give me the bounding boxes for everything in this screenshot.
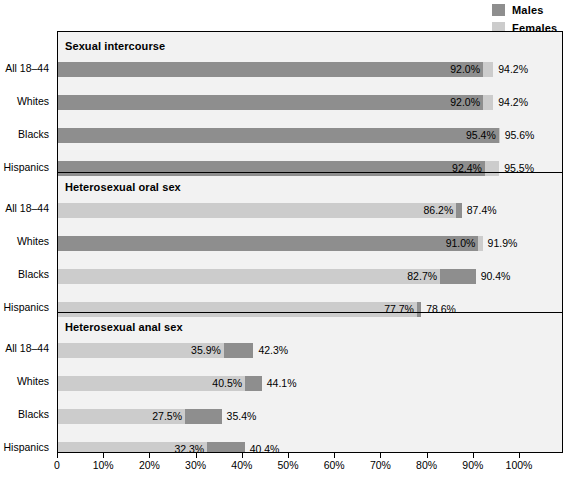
axis-tick — [288, 453, 289, 458]
axis-tick — [196, 453, 197, 458]
category-label: All 18–44 — [5, 201, 49, 216]
panel-title: Sexual intercourse — [65, 40, 165, 52]
axis-tick-label: 70% — [370, 459, 391, 471]
bar-value-females: 82.7% — [407, 269, 440, 284]
bar-value-females: 27.5% — [152, 409, 185, 424]
bar-value-males: 42.3% — [253, 343, 288, 358]
legend-swatch-males — [492, 4, 505, 16]
bar-value-males: 87.4% — [462, 203, 497, 218]
axis-tick-label: 80% — [416, 459, 437, 471]
chart-panel-1: Heterosexual oral sex86.2%87.4%91.0%91.9… — [58, 172, 562, 312]
chart-panel-2: Heterosexual anal sex35.9%42.3%40.5%44.1… — [58, 312, 562, 452]
chart-panel-0: Sexual intercourse92.0%94.2%92.0%94.2%95… — [58, 32, 562, 172]
category-label: Hispanics — [3, 300, 49, 315]
bar-value-males: 91.0% — [446, 236, 479, 251]
axis-tick — [427, 453, 428, 458]
bar-value-females: 40.5% — [212, 376, 245, 391]
category-axis-labels: All 18–44WhitesBlacksHispanicsAll 18–44W… — [0, 31, 53, 453]
bar-value-females: 86.2% — [423, 203, 456, 218]
bar-segment-females — [58, 203, 456, 218]
bar-value-females: 94.2% — [493, 62, 528, 77]
bar-value-males: 90.4% — [476, 269, 511, 284]
category-label: All 18–44 — [5, 341, 49, 356]
axis-tick-label: 60% — [324, 459, 345, 471]
bar-row: 27.5%35.4% — [58, 409, 562, 424]
axis-tick-label: 20% — [139, 459, 160, 471]
bar-value-females: 35.9% — [191, 343, 224, 358]
x-axis: 010%20%30%40%50%60%70%80%90%100% — [57, 453, 563, 483]
bar-value-females: 91.9% — [483, 236, 518, 251]
bar-segment-males — [58, 62, 483, 77]
axis-tick — [103, 453, 104, 458]
bar-segment-males — [58, 128, 499, 143]
axis-tick-label: 100% — [506, 459, 533, 471]
category-label: Hispanics — [3, 440, 49, 455]
category-label: Whites — [17, 374, 49, 389]
bar-value-males: 92.0% — [450, 95, 483, 110]
category-label: Whites — [17, 94, 49, 109]
category-label: Hispanics — [3, 160, 49, 175]
bar-value-females: 94.2% — [493, 95, 528, 110]
bar-row: 32.3%40.4% — [58, 442, 562, 453]
axis-tick — [380, 453, 381, 458]
axis-tick-label: 50% — [277, 459, 298, 471]
panel-title: Heterosexual oral sex — [65, 181, 181, 193]
bar-row: 92.0%94.2% — [58, 95, 562, 110]
bar-segment-males — [58, 95, 483, 110]
category-label: Blacks — [18, 127, 49, 142]
bar-segment-females — [58, 269, 440, 284]
axis-tick-label: 90% — [462, 459, 483, 471]
bar-row: 95.4%95.6% — [58, 128, 562, 143]
category-label: Blacks — [18, 267, 49, 282]
axis-tick-label: 30% — [185, 459, 206, 471]
bar-row: 82.7%90.4% — [58, 269, 562, 284]
axis-tick — [334, 453, 335, 458]
category-label: All 18–44 — [5, 61, 49, 76]
panel-title: Heterosexual anal sex — [65, 321, 183, 333]
chart-plot-area: Sexual intercourse92.0%94.2%92.0%94.2%95… — [57, 31, 563, 453]
bar-value-males: 40.4% — [245, 442, 280, 453]
category-label: Blacks — [18, 407, 49, 422]
axis-tick — [519, 453, 520, 458]
bar-row: 35.9%42.3% — [58, 343, 562, 358]
axis-tick-label: 10% — [93, 459, 114, 471]
legend-item-males: Males — [492, 2, 570, 17]
bar-row: 92.0%94.2% — [58, 62, 562, 77]
bar-value-females: 95.6% — [500, 128, 535, 143]
axis-tick-label: 40% — [231, 459, 252, 471]
category-label: Whites — [17, 234, 49, 249]
bar-segment-males — [58, 236, 478, 251]
axis-tick — [149, 453, 150, 458]
axis-tick-label: 0 — [54, 459, 60, 471]
bar-value-females: 32.3% — [174, 442, 207, 453]
bar-value-males: 95.4% — [466, 128, 499, 143]
axis-tick — [57, 453, 58, 458]
bar-row: 86.2%87.4% — [58, 203, 562, 218]
bar-value-males: 44.1% — [262, 376, 297, 391]
bar-row: 40.5%44.1% — [58, 376, 562, 391]
axis-tick — [473, 453, 474, 458]
bar-value-males: 35.4% — [222, 409, 257, 424]
bar-row: 91.0%91.9% — [58, 236, 562, 251]
axis-tick — [242, 453, 243, 458]
legend-label-males: Males — [512, 4, 544, 16]
bar-value-males: 92.0% — [450, 62, 483, 77]
